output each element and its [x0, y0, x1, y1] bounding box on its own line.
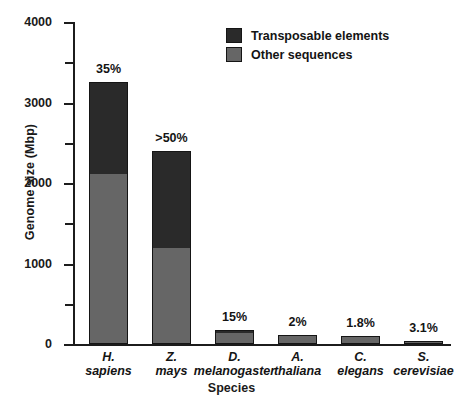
x-category-species: thaliana: [274, 364, 321, 378]
bar-segment-other-sequences: [153, 248, 190, 343]
legend-item-other-sequences: Other sequences: [226, 45, 389, 64]
x-category-label: A.thaliana: [274, 350, 321, 378]
x-category-genus: D.: [228, 350, 241, 364]
y-tick-label: 0: [45, 337, 52, 351]
bar-value-label: 35%: [96, 62, 121, 76]
bar-a-thaliana: [278, 335, 317, 344]
plot-area: 01000200030004000 35%>50%15%2%1.8%3.1%: [73, 22, 451, 345]
y-tick-major: 3000: [64, 103, 73, 105]
x-category-label: C.elegans: [337, 350, 384, 378]
chart-legend: Transposable elements Other sequences: [226, 26, 389, 64]
legend-item-transposable-elements: Transposable elements: [226, 26, 389, 45]
x-category-species: melanogaster: [194, 364, 275, 378]
bar-segment-transposable-elements: [153, 152, 190, 248]
y-tick-major: 0: [64, 344, 73, 346]
x-category-species: mays: [156, 364, 188, 378]
x-category-label: S.cerevisiae: [393, 350, 453, 378]
bar-segment-other-sequences: [279, 336, 316, 343]
x-category-genus: Z.: [166, 350, 177, 364]
legend-label-transposable-elements: Transposable elements: [251, 29, 389, 43]
y-tick-major: 1000: [64, 264, 73, 266]
y-tick-label: 1000: [24, 257, 52, 271]
bar-h-sapiens: [89, 82, 128, 344]
genome-size-bar-chart: Genome size (Mbp) 01000200030004000 35%>…: [0, 0, 463, 407]
x-axis-title: Species: [0, 381, 463, 395]
bar-value-label: 15%: [222, 310, 247, 324]
x-category-species: cerevisiae: [393, 364, 453, 378]
x-axis-line: [73, 344, 451, 346]
x-category-species: elegans: [337, 364, 384, 378]
bar-segment-other-sequences: [216, 333, 253, 343]
y-tick-label: 3000: [24, 96, 52, 110]
bar-segment-other-sequences: [90, 174, 127, 343]
bar-s-cerevisiae: [404, 341, 443, 344]
x-category-genus: C.: [354, 350, 367, 364]
bar-segment-other-sequences: [342, 337, 379, 343]
bar-d-melanogaster: [215, 330, 254, 344]
x-category-label: D.melanogaster: [194, 350, 275, 378]
x-category-genus: H.: [102, 350, 115, 364]
bar-value-label: 1.8%: [346, 316, 375, 330]
x-category-label: H.sapiens: [85, 350, 132, 378]
y-tick-minor: [65, 304, 73, 306]
y-axis-line: [73, 22, 75, 346]
x-category-label: Z.mays: [156, 350, 188, 378]
bar-segment-other-sequences: [405, 342, 442, 343]
x-category-species: sapiens: [85, 364, 132, 378]
legend-swatch-other-sequences: [226, 47, 242, 62]
legend-swatch-transposable-elements: [226, 28, 242, 43]
y-tick-label: 2000: [24, 176, 52, 190]
y-tick-minor: [65, 223, 73, 225]
x-category-genus: A.: [291, 350, 304, 364]
bar-value-label: 2%: [288, 315, 306, 329]
y-tick-label: 4000: [24, 15, 52, 29]
legend-label-other-sequences: Other sequences: [251, 48, 352, 62]
bar-z-mays: [152, 151, 191, 344]
x-category-genus: S.: [418, 350, 430, 364]
bar-value-label: 3.1%: [409, 321, 438, 335]
bar-c-elegans: [341, 336, 380, 344]
bar-value-label: >50%: [155, 131, 187, 145]
bar-segment-transposable-elements: [90, 83, 127, 174]
y-tick-minor: [65, 62, 73, 64]
y-tick-minor: [65, 143, 73, 145]
y-tick-major: 2000: [64, 183, 73, 185]
y-tick-major: 4000: [64, 22, 73, 24]
